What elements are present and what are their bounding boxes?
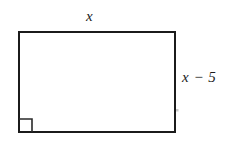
right-side-label: x − 5	[182, 70, 216, 85]
top-side-label: x	[86, 9, 93, 24]
right-angle-marker	[19, 119, 32, 132]
stray-dot-artifact	[176, 109, 179, 112]
rectangle-shape	[19, 32, 175, 132]
geometry-figure: x x − 5	[0, 0, 237, 142]
